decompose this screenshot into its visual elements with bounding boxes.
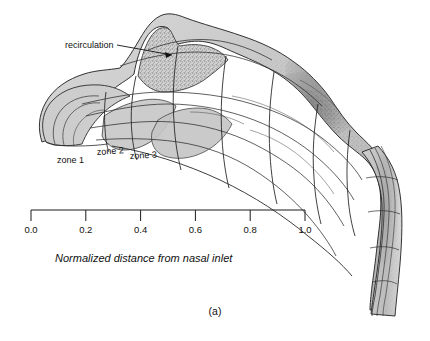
axis-ticks — [31, 210, 305, 221]
zone-labels: zone 1 zone 2 zone 3 — [57, 145, 157, 165]
zone-1-label: zone 1 — [57, 155, 84, 165]
zone-3-label: zone 3 — [130, 150, 158, 161]
nasopharynx-tail — [360, 145, 405, 320]
tick-label-3: 0.6 — [189, 224, 202, 235]
axis-title: Normalized distance from nasal inlet — [55, 252, 233, 264]
axis-tick-labels: 0.0 0.2 0.4 0.6 0.8 1.0 — [24, 224, 311, 235]
nasal-cavity-drawing — [39, 14, 405, 320]
tick-label-5: 1.0 — [298, 224, 311, 235]
tick-label-4: 0.8 — [244, 224, 257, 235]
nasal-airway-figure: recirculation zone 1 zone 2 zone 3 0.0 — [0, 0, 430, 341]
tick-label-0: 0.0 — [24, 224, 37, 235]
figure-container: recirculation zone 1 zone 2 zone 3 0.0 — [0, 0, 430, 341]
normalized-distance-axis: 0.0 0.2 0.4 0.6 0.8 1.0 Normalized dista… — [24, 210, 311, 264]
zone-2-label: zone 2 — [96, 145, 124, 157]
tick-label-2: 0.4 — [134, 224, 147, 235]
recirculation-label: recirculation — [65, 40, 114, 50]
figure-caption: (a) — [209, 305, 222, 317]
tick-label-1: 0.2 — [79, 224, 92, 235]
